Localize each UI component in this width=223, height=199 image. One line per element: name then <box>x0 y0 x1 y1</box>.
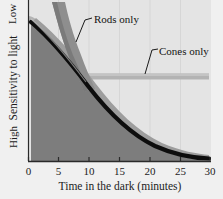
cones-curve-highlight <box>76 74 209 77</box>
y-axis-labels: Low Sensitivity to light High <box>0 0 28 162</box>
x-tick-label-20: 20 <box>139 165 161 177</box>
x-tick-label-10: 10 <box>78 165 100 177</box>
dark-adaptation-chart: Rods only Cones only Low Sensitivity to … <box>0 0 223 199</box>
y-axis-low-label: Low <box>6 0 18 34</box>
y-axis-high-label: High <box>7 117 19 157</box>
rods-only-label: Rods only <box>94 13 139 25</box>
cones-only-label: Cones only <box>159 45 209 57</box>
x-tick-label-0: 0 <box>18 165 40 177</box>
x-axis-title: Time in the dark (minutes) <box>27 180 213 192</box>
x-tick-label-5: 5 <box>48 165 70 177</box>
x-tick-label-30: 30 <box>199 165 221 177</box>
x-tick-label-15: 15 <box>109 165 131 177</box>
x-tick-label-25: 25 <box>170 165 192 177</box>
y-axis-title: Sensitivity to light <box>7 33 19 123</box>
